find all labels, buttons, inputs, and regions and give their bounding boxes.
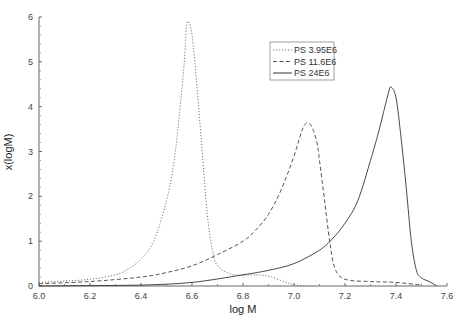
x-tick-label: 6.4 (135, 291, 148, 301)
x-tick-label: 6.2 (84, 291, 97, 301)
series-line-1 (39, 21, 307, 286)
y-tick-label: 6 (28, 12, 33, 22)
legend-label: PS 24E6 (294, 68, 330, 78)
series-line-3 (39, 87, 437, 286)
y-axis-label: x(logM) (2, 134, 14, 171)
x-tick-label: 6.6 (186, 291, 199, 301)
x-tick-label: 7.4 (390, 291, 403, 301)
series-layer (39, 21, 437, 286)
legend-label: PS 11.6E6 (294, 57, 336, 67)
y-tick-label: 1 (28, 236, 33, 246)
y-tick-label: 4 (28, 102, 33, 112)
x-tick-label: 7.2 (339, 291, 352, 301)
x-tick-label: 7.0 (288, 291, 301, 301)
y-axis: 0123456 (28, 12, 42, 291)
y-tick-label: 0 (28, 281, 33, 291)
x-tick-label: 6.0 (33, 291, 46, 301)
legend-label: PS 3.95E6 (294, 45, 337, 55)
series-line-2 (39, 123, 422, 285)
y-tick-label: 3 (28, 147, 33, 157)
x-axis-label: log M (230, 303, 257, 315)
x-tick-label: 6.8 (237, 291, 250, 301)
y-tick-label: 5 (28, 57, 33, 67)
legend: PS 3.95E6PS 11.6E6PS 24E6 (270, 42, 337, 80)
chart: 6.06.26.46.66.87.07.27.47.6 0123456 log … (0, 0, 466, 328)
x-tick-label: 7.6 (441, 291, 454, 301)
y-tick-label: 2 (28, 191, 33, 201)
